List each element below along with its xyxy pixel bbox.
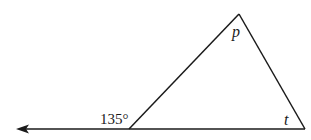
base-right-angle-label: t	[284, 111, 289, 128]
exterior-angle-label: 135°	[100, 111, 129, 127]
apex-angle-label: p	[231, 23, 240, 41]
triangle-diagram: 135° p t	[0, 0, 311, 140]
side-right	[239, 14, 305, 129]
side-left	[129, 14, 239, 129]
triangle	[24, 14, 305, 129]
